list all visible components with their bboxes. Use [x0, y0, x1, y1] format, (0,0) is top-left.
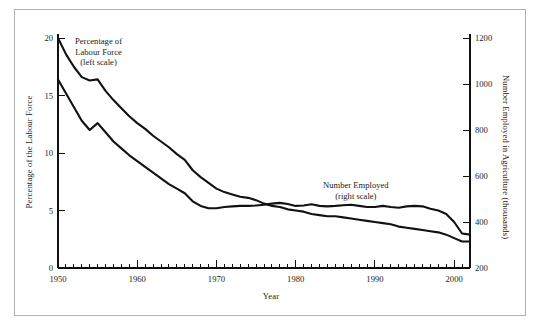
x-tick-label: 1980	[287, 274, 304, 284]
y-tick-label-right: 200	[475, 263, 488, 273]
x-tick-label: 2000	[446, 274, 463, 284]
chart-figure: Percentage of the Labour Force Number Em…	[14, 9, 526, 316]
y-tick-label-right: 1000	[475, 79, 492, 89]
series-line	[58, 79, 470, 234]
y-tick-label-left: 0	[49, 263, 53, 273]
y-tick-label-left: 20	[44, 33, 53, 43]
y-tick-label-right: 600	[475, 171, 488, 181]
x-tick-label: 1970	[208, 274, 225, 284]
x-tick-label: 1990	[366, 274, 383, 284]
y-tick-label-left: 5	[49, 206, 53, 216]
y-tick-label-right: 800	[475, 125, 488, 135]
x-tick-label: 1960	[129, 274, 146, 284]
series-line	[58, 38, 470, 242]
chart-plot-area: 0510152020040060080010001200195019601970…	[15, 10, 527, 317]
series-group	[58, 38, 470, 242]
y-tick-label-right: 400	[475, 217, 488, 227]
y-tick-label-left: 15	[44, 91, 53, 101]
x-tick-label: 1950	[49, 274, 66, 284]
axes-group	[58, 34, 470, 268]
tick-label-group: 0510152020040060080010001200195019601970…	[44, 33, 492, 284]
y-tick-label-left: 10	[44, 148, 53, 158]
y-tick-label-right: 1200	[475, 33, 492, 43]
